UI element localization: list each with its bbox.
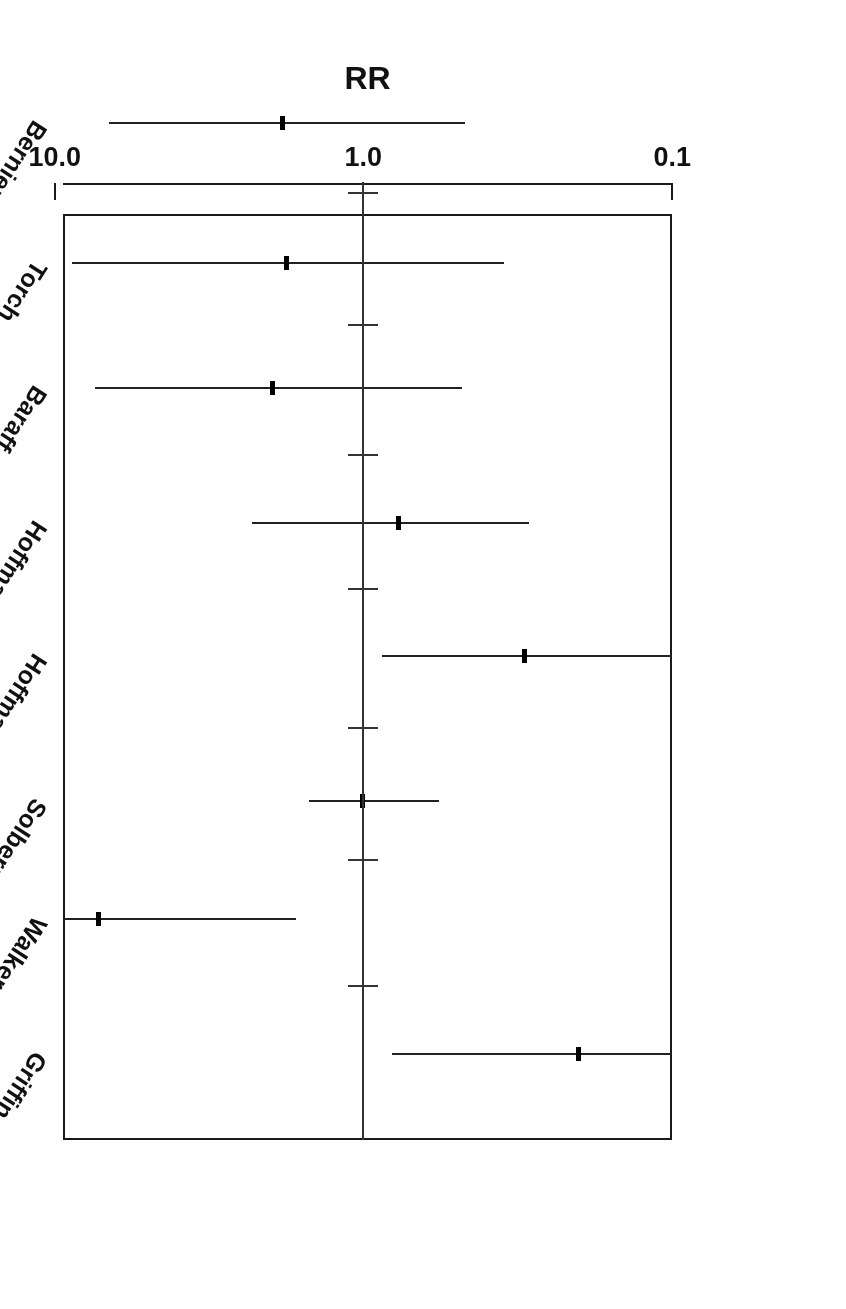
confidence-interval-line xyxy=(95,387,461,389)
confidence-interval-line xyxy=(392,1053,672,1055)
study-label-solberg: Solberg xyxy=(0,794,53,888)
rr-axis: 10.01.00.1 RR xyxy=(63,0,672,185)
point-estimate-marker xyxy=(270,381,275,395)
study-label-griffin: Griffin xyxy=(0,1047,53,1126)
figure-rotation-wrapper: GriffinWalkerSolbergHoffman AHoffman BBa… xyxy=(0,0,846,1309)
axis-tick xyxy=(54,183,56,200)
study-label-hoffman-a: Hoffman A xyxy=(0,649,53,770)
axis-tick-label: 0.1 xyxy=(653,142,691,173)
axis-tick xyxy=(671,183,673,200)
point-estimate-marker xyxy=(576,1047,581,1061)
reference-line-tick xyxy=(349,986,379,988)
forest-plot-figure: GriffinWalkerSolbergHoffman AHoffman BBa… xyxy=(0,0,846,1309)
confidence-interval-line xyxy=(309,800,439,802)
point-estimate-marker xyxy=(96,912,101,926)
axis-line xyxy=(63,183,672,185)
study-label-walker: Walker xyxy=(0,912,53,996)
axis-title-rr: RR xyxy=(63,60,672,97)
study-label-hoffman-b: Hoffman B xyxy=(0,516,53,638)
study-label-baraff: Baraff xyxy=(0,381,53,457)
reference-line-tick xyxy=(349,455,379,457)
reference-line-tick xyxy=(349,325,379,327)
axis-tick-label: 1.0 xyxy=(345,142,383,173)
confidence-interval-line xyxy=(252,522,529,524)
reference-line-tick xyxy=(349,728,379,730)
axis-tick-label: 10.0 xyxy=(29,142,82,173)
confidence-interval-line xyxy=(382,655,672,657)
study-label-torch: Torch xyxy=(0,256,53,328)
point-estimate-marker xyxy=(522,649,527,663)
reference-line-tick xyxy=(349,859,379,861)
point-estimate-marker xyxy=(396,516,401,530)
reference-line-tick xyxy=(349,589,379,591)
point-estimate-marker xyxy=(284,256,289,270)
reference-line-tick xyxy=(349,192,379,194)
plot-frame xyxy=(63,214,672,1140)
